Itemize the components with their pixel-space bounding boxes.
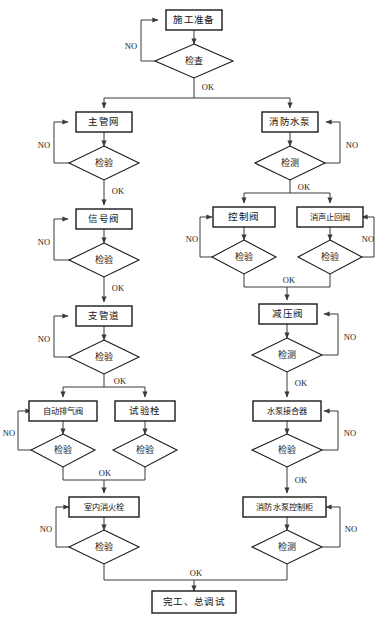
node-pump-control-cabinet-check[interactable]: 检测	[252, 530, 322, 564]
node-prep-label: 施工准备	[173, 14, 215, 25]
node-indoor-hydrant-label: 室内消火栓	[84, 502, 125, 512]
flowchart-svg: 施工准备 检查 NO OK 主管网 检验 NO OK 信号阀 检验 NO OK	[0, 0, 386, 625]
edge-label-silencing-no: NO	[362, 234, 374, 244]
node-signal-valve-check[interactable]: 检验	[69, 243, 139, 277]
node-main-pipe[interactable]: 主管网	[76, 112, 132, 132]
node-auto-exhaust-valve-check[interactable]: 检验	[31, 434, 95, 467]
edge-label-pumpadapter-no: NO	[344, 428, 356, 438]
edge-signalvalve-no	[54, 219, 76, 260]
node-auto-exhaust-valve-check-label: 检验	[54, 444, 73, 455]
node-signal-valve[interactable]: 信号阀	[76, 209, 132, 229]
edge-label-right-merge-ok: OK	[283, 275, 296, 285]
edge-label-branchpipe-no: NO	[38, 334, 50, 344]
edge-label-firepump-no: NO	[346, 140, 358, 150]
node-branch-pipe-label: 支管道	[88, 310, 119, 321]
edge-label-indoorhydrant-no: NO	[40, 524, 52, 534]
edge-branchpipe-no	[54, 316, 76, 357]
node-control-valve-check[interactable]: 检验	[212, 240, 276, 274]
edge-label-controlvalve-no: NO	[186, 234, 198, 244]
edge-cabinet-ok-to-final	[194, 564, 287, 580]
node-test-hydrant[interactable]: 试验栓	[115, 401, 175, 421]
node-fire-pump[interactable]: 消防水泵	[262, 112, 318, 132]
node-fire-pump-check[interactable]: 检测	[255, 146, 325, 180]
edge-label-left-merge-ok: OK	[99, 468, 112, 478]
node-prep[interactable]: 施工准备	[166, 10, 222, 30]
node-pump-adapter[interactable]: 水泵接合器	[253, 401, 321, 421]
node-silencing-check-valve-label: 消声止回阀	[310, 212, 351, 222]
edge-label-branchpipe-ok: OK	[114, 376, 127, 386]
edge-mainpipe-no	[54, 122, 76, 163]
node-branch-pipe[interactable]: 支管道	[76, 306, 132, 326]
node-test-hydrant-check[interactable]: 检验	[113, 434, 177, 467]
edge-reducingvalve-no	[317, 314, 338, 355]
node-silencing-check-valve-check[interactable]: 检验	[298, 240, 362, 274]
node-main-pipe-label: 主管网	[88, 116, 119, 127]
node-branch-pipe-check-label: 检验	[95, 351, 114, 362]
edge-label-signalvalve-no: NO	[38, 237, 50, 247]
node-reducing-valve-label: 减压阀	[272, 308, 303, 319]
node-silencing-check-valve-check-label: 检验	[321, 251, 340, 262]
node-prep-check[interactable]: 检查	[155, 44, 233, 78]
node-fire-pump-check-label: 检测	[281, 157, 300, 168]
node-main-pipe-check-label: 检验	[95, 157, 114, 168]
node-reducing-valve-check[interactable]: 检测	[252, 338, 322, 372]
edge-label-reducingvalve-ok: OK	[295, 378, 308, 388]
node-indoor-hydrant-check-label: 检验	[95, 541, 114, 552]
node-pump-control-cabinet[interactable]: 消防水泵控制柜	[243, 497, 326, 517]
node-pump-adapter-label: 水泵接合器	[267, 406, 308, 416]
edge-label-firepump-ok: OK	[298, 182, 311, 192]
node-auto-exhaust-valve[interactable]: 自动排气阀	[29, 401, 97, 421]
node-signal-valve-check-label: 检验	[95, 254, 114, 265]
edge-label-prep-no: NO	[125, 41, 137, 51]
node-completion[interactable]: 完工、总调试	[152, 591, 236, 613]
edge-indoorhydrant-ok-to-final	[104, 564, 194, 580]
node-control-valve[interactable]: 控制阀	[213, 207, 275, 227]
node-test-hydrant-label: 试验栓	[129, 405, 160, 416]
edge-label-prep-ok: OK	[202, 82, 215, 92]
edge-label-final-ok: OK	[190, 568, 203, 578]
node-completion-label: 完工、总调试	[163, 596, 225, 607]
node-fire-pump-label: 消防水泵	[269, 116, 311, 127]
node-control-valve-label: 控制阀	[228, 211, 259, 222]
node-indoor-hydrant[interactable]: 室内消火栓	[69, 497, 139, 517]
node-pump-adapter-check[interactable]: 检验	[252, 434, 322, 467]
node-signal-valve-label: 信号阀	[88, 213, 119, 224]
node-pump-control-cabinet-label: 消防水泵控制柜	[256, 502, 313, 512]
node-branch-pipe-check[interactable]: 检验	[69, 340, 139, 374]
node-reducing-valve-check-label: 检测	[278, 349, 297, 360]
node-control-valve-check-label: 检验	[235, 251, 254, 262]
edge-label-cabinet-no: NO	[345, 524, 357, 534]
edge-check-no-to-prep	[141, 20, 160, 61]
node-auto-exhaust-valve-label: 自动排气阀	[43, 406, 84, 416]
edge-label-mainpipe-no: NO	[38, 140, 50, 150]
node-main-pipe-check[interactable]: 检验	[69, 146, 139, 180]
edge-label-pumpadapter-ok: OK	[295, 475, 308, 485]
node-pump-control-cabinet-check-label: 检测	[278, 541, 297, 552]
node-test-hydrant-check-label: 检验	[136, 444, 155, 455]
node-silencing-check-valve[interactable]: 消声止回阀	[297, 207, 363, 227]
edge-label-reducingvalve-no: NO	[344, 332, 356, 342]
node-indoor-hydrant-check[interactable]: 检验	[69, 530, 139, 564]
edge-label-mainpipe-ok: OK	[112, 186, 125, 196]
edge-firepump-no	[320, 122, 340, 163]
edge-label-autoexhaust-no: NO	[3, 428, 15, 438]
edge-label-signalvalve-ok: OK	[112, 283, 125, 293]
node-prep-check-label: 检查	[185, 55, 204, 66]
flowchart-canvas: 施工准备 检查 NO OK 主管网 检验 NO OK 信号阀 检验 NO OK	[0, 0, 386, 625]
node-reducing-valve[interactable]: 减压阀	[259, 304, 317, 324]
node-pump-adapter-check-label: 检验	[278, 444, 297, 455]
